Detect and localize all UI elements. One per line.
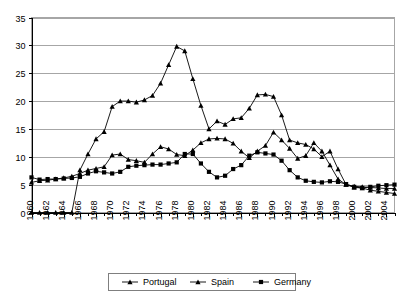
data-point-marker [327, 149, 332, 154]
data-point-marker [296, 175, 300, 179]
y-axis-tick-label: 25 [15, 69, 25, 79]
x-axis-tick-label: 1998 [331, 200, 341, 220]
data-point-marker [70, 176, 74, 180]
data-point-marker [247, 106, 252, 111]
data-point-marker [223, 122, 228, 127]
data-point-marker [158, 81, 163, 86]
data-point-marker [142, 97, 147, 102]
data-point-marker [271, 130, 276, 135]
y-axis-tick-label: 5 [20, 181, 25, 191]
data-point-marker [247, 154, 251, 158]
y-axis-tick-label: 30 [15, 41, 25, 51]
data-point-marker [150, 93, 155, 98]
data-point-marker [118, 170, 122, 174]
data-point-marker [231, 167, 235, 171]
y-axis-tick-label: 20 [15, 97, 25, 107]
data-point-marker [167, 161, 171, 165]
data-point-marker [126, 165, 130, 169]
x-axis-tick-label: 1968 [89, 200, 99, 220]
data-point-marker [303, 153, 308, 158]
data-point-marker [54, 177, 58, 181]
data-point-marker [288, 168, 292, 172]
data-point-marker [110, 171, 114, 175]
y-axis-tick-label: 35 [15, 14, 25, 24]
x-axis-tick-label: 1986 [234, 200, 244, 220]
data-point-marker [158, 144, 163, 149]
x-axis-tick-label: 1984 [218, 200, 228, 220]
data-point-marker [312, 180, 316, 184]
data-point-marker [86, 171, 90, 175]
x-axis-tick-label: 1974 [137, 200, 147, 220]
x-axis-tick-label: 1982 [202, 200, 212, 220]
data-point-marker [214, 119, 219, 124]
data-point-marker [376, 184, 380, 188]
data-point-marker [134, 164, 138, 168]
legend-item-label: Germany [274, 277, 312, 287]
x-axis-tick-label: 1988 [250, 200, 260, 220]
data-point-marker [263, 151, 267, 155]
data-point-marker [259, 280, 263, 284]
series-germany [29, 150, 396, 190]
data-point-marker [271, 152, 275, 156]
data-point-marker [352, 185, 356, 189]
data-point-marker [62, 176, 66, 180]
data-point-marker [328, 179, 332, 183]
data-point-marker [198, 103, 203, 108]
x-axis-tick-label: 1972 [121, 200, 131, 220]
x-axis-tick-label: 2002 [363, 200, 373, 220]
chart-container: 05101520253035 1960196219641966196819701… [0, 0, 403, 297]
data-point-marker [198, 140, 203, 145]
data-point-marker [255, 150, 259, 154]
data-point-marker [207, 170, 211, 174]
data-point-marker [287, 137, 292, 142]
data-point-marker [78, 175, 82, 179]
data-point-marker [158, 162, 162, 166]
x-axis-tick-label: 1970 [105, 200, 115, 220]
data-point-marker [279, 159, 283, 163]
data-point-marker [327, 163, 332, 168]
x-axis-tick-label: 2000 [347, 200, 357, 220]
data-point-marker [182, 48, 187, 53]
data-point-marker [142, 163, 146, 167]
x-axis-tick-label: 1980 [186, 200, 196, 220]
data-point-marker [85, 151, 90, 156]
data-point-marker [46, 177, 50, 181]
data-point-marker [360, 186, 364, 190]
data-point-marker [392, 183, 396, 187]
x-axis-tick-label: 1960 [25, 200, 35, 220]
data-point-marker [368, 185, 372, 189]
data-point-marker [344, 182, 348, 186]
data-point-marker [110, 104, 115, 109]
line-chart: 05101520253035 1960196219641966196819701… [0, 0, 403, 297]
x-axis-tick-label: 1964 [57, 200, 67, 220]
data-point-marker [199, 161, 203, 165]
data-point-marker [336, 180, 340, 184]
data-point-marker [311, 146, 316, 151]
x-axis-tick-label: 1990 [267, 200, 277, 220]
x-axis-tick-label: 1992 [283, 200, 293, 220]
x-axis-tick-label: 1962 [41, 200, 51, 220]
data-point-marker [231, 141, 236, 146]
data-point-marker [29, 175, 33, 179]
x-axis-tick-label: 1996 [315, 200, 325, 220]
data-point-marker [335, 166, 340, 171]
data-point-marker [384, 183, 388, 187]
y-axis-tick-label: 15 [15, 125, 25, 135]
data-point-marker [304, 179, 308, 183]
data-point-marker [94, 169, 98, 173]
data-point-marker [183, 152, 187, 156]
x-axis-tick-label: 1994 [299, 200, 309, 220]
data-point-marker [190, 76, 195, 81]
x-axis-tick-label: 1976 [154, 200, 164, 220]
y-axis-tick-label: 10 [15, 153, 25, 163]
data-point-marker [215, 175, 219, 179]
gridlines-group [32, 19, 395, 214]
data-point-marker [320, 180, 324, 184]
chart-legend: PortugalSpainGermany [109, 274, 312, 291]
data-point-marker [191, 152, 195, 156]
x-axis: 1960196219641966196819701972197419761978… [25, 200, 396, 220]
data-point-marker [279, 112, 284, 117]
legend-item-label: Spain [211, 277, 234, 287]
data-point-marker [150, 162, 154, 166]
data-point-marker [37, 178, 41, 182]
